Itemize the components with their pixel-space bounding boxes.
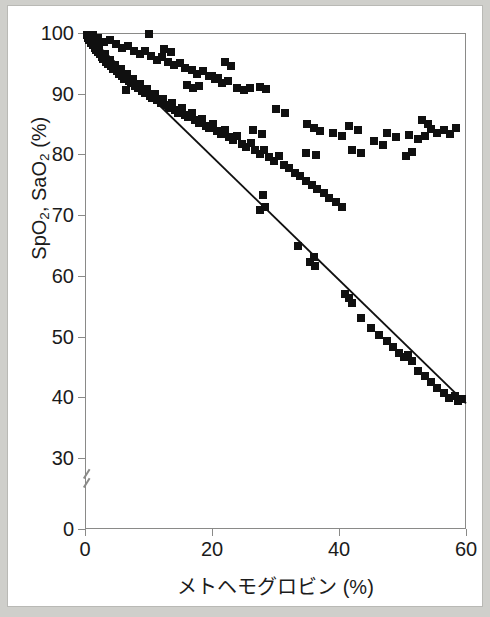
data-point-spo2 xyxy=(281,109,289,117)
data-point-spo2 xyxy=(195,82,203,90)
data-point-sao2 xyxy=(408,357,416,365)
data-point-sao2 xyxy=(294,242,302,250)
y-tick-30 xyxy=(78,458,85,459)
data-point-sao2 xyxy=(310,253,318,261)
plot-area: 100908070605040300 0204060 xyxy=(85,33,466,529)
data-point-spo2 xyxy=(354,126,362,134)
data-point-spo2 xyxy=(316,127,324,135)
y-tick-label-60: 60 xyxy=(52,264,74,287)
data-point-spo2 xyxy=(224,77,232,85)
y-tick-label-30: 30 xyxy=(52,447,74,470)
x-tick-0 xyxy=(85,529,86,536)
data-point-spo2 xyxy=(249,126,257,134)
data-point-sao2 xyxy=(259,191,267,199)
data-point-sao2 xyxy=(458,395,466,403)
data-point-spo2 xyxy=(345,122,353,130)
figure-canvas: 100908070605040300 0204060 メトヘモグロビン (%) … xyxy=(8,6,482,606)
data-point-spo2 xyxy=(348,146,356,154)
y-axis-title: SpO2, SaO2 (%) xyxy=(28,8,52,368)
data-point-spo2 xyxy=(421,132,429,140)
y-tick-label-80: 80 xyxy=(52,143,74,166)
y-tick-70 xyxy=(78,215,85,216)
data-point-spo2 xyxy=(262,85,270,93)
data-point-spo2 xyxy=(246,84,254,92)
data-point-sao2 xyxy=(311,262,319,270)
y-tick-label-90: 90 xyxy=(52,82,74,105)
data-point-sao2 xyxy=(338,203,346,211)
x-tick-label-40: 40 xyxy=(328,538,350,561)
x-tick-20 xyxy=(212,529,213,536)
y-axis-title-spo2: SpO2 xyxy=(28,212,50,260)
data-point-sao2 xyxy=(348,299,356,307)
data-point-spo2 xyxy=(383,129,391,137)
y-axis-title-sao2-sub: 2 xyxy=(37,153,52,161)
data-point-spo2 xyxy=(357,149,365,157)
y-tick-40 xyxy=(78,397,85,398)
data-point-spo2 xyxy=(392,133,400,141)
y-tick-label-50: 50 xyxy=(52,325,74,348)
data-point-spo2 xyxy=(312,151,320,159)
data-point-sao2 xyxy=(122,86,130,94)
y-tick-90 xyxy=(78,94,85,95)
data-point-spo2 xyxy=(145,30,153,38)
data-point-sao2 xyxy=(260,146,268,154)
data-point-spo2 xyxy=(258,130,266,138)
x-tick-60 xyxy=(466,529,467,536)
y-tick-0 xyxy=(78,529,85,530)
data-point-sao2 xyxy=(275,152,283,160)
data-point-spo2 xyxy=(167,48,175,56)
y-axis-title-unit: (%) xyxy=(28,117,50,154)
data-point-sao2 xyxy=(357,314,365,322)
x-tick-label-60: 60 xyxy=(455,538,477,561)
x-tick-label-0: 0 xyxy=(79,538,90,561)
data-point-spo2 xyxy=(452,124,460,132)
x-tick-40 xyxy=(339,529,340,536)
data-point-spo2 xyxy=(424,120,432,128)
y-tick-60 xyxy=(78,276,85,277)
data-point-sao2 xyxy=(261,203,269,211)
data-point-spo2 xyxy=(329,129,337,137)
y-tick-80 xyxy=(78,154,85,155)
y-tick-50 xyxy=(78,337,85,338)
y-tick-label-40: 40 xyxy=(52,386,74,409)
x-tick-label-20: 20 xyxy=(201,538,223,561)
data-point-spo2 xyxy=(408,148,416,156)
data-point-spo2 xyxy=(227,62,235,70)
y-axis-title-sep: , SaO xyxy=(28,161,50,212)
data-point-spo2 xyxy=(302,149,310,157)
data-point-spo2 xyxy=(338,132,346,140)
data-point-spo2 xyxy=(272,105,280,113)
x-axis-title: メトヘモグロビン (%) xyxy=(85,571,466,600)
data-point-spo2 xyxy=(405,131,413,139)
data-point-spo2 xyxy=(370,137,378,145)
data-point-spo2 xyxy=(214,74,222,82)
y-tick-label-0: 0 xyxy=(63,518,74,541)
data-point-spo2 xyxy=(379,141,387,149)
y-tick-label-70: 70 xyxy=(52,204,74,227)
data-point-sao2 xyxy=(367,324,375,332)
